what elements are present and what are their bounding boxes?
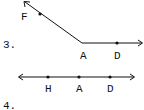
point-A xyxy=(77,75,80,78)
label-A: A xyxy=(80,51,87,62)
figure-4-number: 4. xyxy=(3,101,16,110)
label-A: A xyxy=(76,84,83,95)
label-D: D xyxy=(114,51,121,62)
label-D: D xyxy=(107,84,114,95)
figure-3-angle xyxy=(24,2,143,47)
figure-4-line xyxy=(19,74,135,80)
label-H: H xyxy=(45,84,52,95)
ray-AF xyxy=(25,2,82,43)
label-F: F xyxy=(21,12,28,23)
point-D xyxy=(115,41,118,44)
figure-3-number: 3. xyxy=(3,40,16,51)
point-D xyxy=(108,75,111,78)
point-F xyxy=(38,12,41,15)
point-H xyxy=(46,75,49,78)
